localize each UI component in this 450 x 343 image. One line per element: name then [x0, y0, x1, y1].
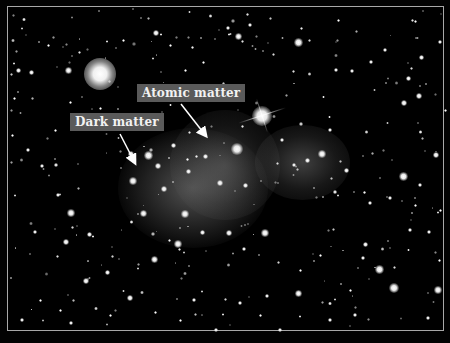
atomic-matter-label: Atomic matter	[137, 84, 245, 102]
dark-matter-label: Dark matter	[70, 113, 164, 131]
annotation-arrows	[0, 0, 450, 343]
dark-matter-arrow	[120, 134, 135, 163]
atomic-matter-arrow	[181, 104, 206, 136]
astronomy-image: Atomic matter Dark matter	[0, 0, 450, 343]
